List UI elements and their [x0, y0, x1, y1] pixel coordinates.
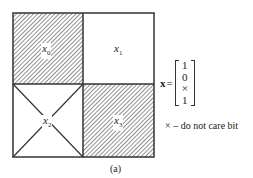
vector-name: x — [160, 77, 166, 89]
vector-entry: 1 — [182, 60, 188, 72]
figure-caption: (a) — [110, 163, 121, 174]
equals-sign: = — [167, 77, 173, 89]
label-x2: x2 — [42, 115, 52, 131]
vector-entry: × — [182, 83, 188, 95]
vector-entry: 1 — [182, 95, 188, 107]
right-bracket — [191, 60, 195, 106]
label-x3: x3 — [113, 115, 123, 131]
label-x0: x0 — [41, 43, 51, 59]
label-x1: x1 — [113, 43, 123, 59]
karnaugh-grid — [0, 0, 253, 178]
legend-dont-care: × – do not care bit — [165, 120, 238, 131]
vector-definition: x = 1 0 × 1 — [160, 60, 195, 106]
column-vector: 1 0 × 1 — [175, 60, 195, 106]
